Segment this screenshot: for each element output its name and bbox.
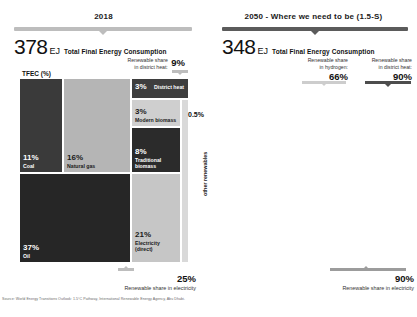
timeline-caret-2018 — [99, 31, 107, 35]
treemap-cell-traditional-biomass-2018[interactable]: 8% Traditional biomass — [131, 127, 181, 173]
bottom-note-2018: 25% Renewable share in electricity — [40, 272, 196, 293]
cell-mb-pct-2018: 3% — [135, 108, 178, 116]
panel-2018-title: 2018 — [0, 12, 207, 21]
bottom-value-2018: 25% — [40, 272, 196, 285]
total-value-2018: 378 — [14, 36, 48, 57]
panel-2050-title: 2050 - Where we need to be (1.5-S) — [210, 12, 417, 21]
callout-dh-line1-2018: Renewable share — [127, 57, 167, 63]
callout-dh-caret-2018 — [177, 72, 183, 75]
callout-district-heat-2050: Renewable share in district heat: 90% — [350, 57, 412, 84]
treemap-2018: 11% Coal 16% Natural gas 37% Oil 3% Dist… — [19, 78, 189, 263]
total-caption-2050: Total Final Energy Consumption — [272, 48, 375, 55]
panel-2018: 2018 378 EJ Total Final Energy Consumpti… — [0, 0, 207, 317]
cell-coal-pct-2018: 11% — [23, 154, 60, 162]
other-renewables-pct-2018: 0.5% — [188, 111, 204, 118]
callout-district-heat-2018: Renewable share in district heat: 9% — [93, 57, 185, 71]
bottom-label-2018: Renewable share in electricity — [40, 285, 196, 293]
cell-el-label2-2018: (direct) — [135, 246, 178, 252]
cell-tb-pct-2018: 8% — [135, 148, 178, 156]
timeline-caret-2050 — [311, 31, 319, 35]
other-renewables-axis-label-2018: other renewables — [202, 152, 208, 196]
total-unit-2050: EJ — [258, 46, 269, 56]
treemap-cell-coal-2018[interactable]: 11% Coal — [19, 78, 63, 173]
treemap-cell-modern-biomass-2018[interactable]: 3% Modern biomass — [131, 99, 181, 127]
treemap-cell-district-heat-2018[interactable]: 3% District heat — [131, 78, 189, 99]
callout-h2-line1-2050: Renewable share — [286, 57, 348, 64]
total-unit-2018: EJ — [50, 46, 61, 56]
total-value-2050: 348 — [222, 36, 256, 57]
cell-dh-pct-2018: 3% — [135, 82, 147, 91]
total-caption-2018: Total Final Energy Consumption — [64, 48, 167, 55]
callout-dh-line2-2050: in district heat: — [350, 64, 412, 71]
cell-mb-label-2018: Modern biomass — [135, 117, 178, 123]
callout-dh-line1-2050: Renewable share — [350, 57, 412, 64]
total-energy-2050: 348 EJ Total Final Energy Consumption — [222, 36, 375, 57]
cell-oil-pct-2018: 37% — [23, 244, 128, 252]
tfec-axis-label-2018: TFEC (%) — [22, 70, 51, 77]
treemap-cell-other-renewables-2018[interactable] — [181, 99, 189, 263]
cell-gas-label-2018: Natural gas — [67, 163, 128, 169]
bottom-note-2050: 90% Renewable share in electricity — [250, 272, 414, 293]
bottom-value-2050: 90% — [250, 272, 414, 285]
cell-el-pct-2018: 21% — [135, 231, 178, 239]
callout-dh-value-2018: 9% — [171, 57, 185, 70]
treemap-cell-oil-2018[interactable]: 37% Oil — [19, 173, 131, 263]
cell-oil-label-2018: Oil — [23, 253, 128, 259]
source-note: Source: World Energy Transitions Outlook… — [2, 297, 185, 301]
treemap-cell-electricity-direct-2018[interactable]: 21% Electricity (direct) — [131, 173, 181, 263]
bottom-label-2050: Renewable share in electricity — [250, 285, 414, 293]
cell-dh-label-2018: District heat — [154, 84, 184, 90]
cell-coal-label-2018: Coal — [23, 163, 60, 169]
callout-h2-caret-2050 — [321, 83, 327, 86]
bottom-caret-2018 — [123, 266, 129, 269]
callout-dh-line2-2018: in district heat: — [134, 64, 167, 70]
callout-dh-caret-2050 — [385, 84, 391, 87]
callout-hydrogen-2050: Renewable share in hydrogen: 66% — [286, 57, 348, 84]
cell-tb-label-2018: Traditional biomass — [135, 157, 178, 169]
total-energy-2018: 378 EJ Total Final Energy Consumption — [14, 36, 167, 57]
bottom-caret-2050 — [363, 266, 369, 269]
callout-h2-line2-2050: in hydrogen: — [286, 64, 348, 71]
treemap-cell-natural-gas-2018[interactable]: 16% Natural gas — [63, 78, 131, 173]
panel-2050: 2050 - Where we need to be (1.5-S) 348 E… — [210, 0, 417, 317]
cell-gas-pct-2018: 16% — [67, 154, 128, 162]
